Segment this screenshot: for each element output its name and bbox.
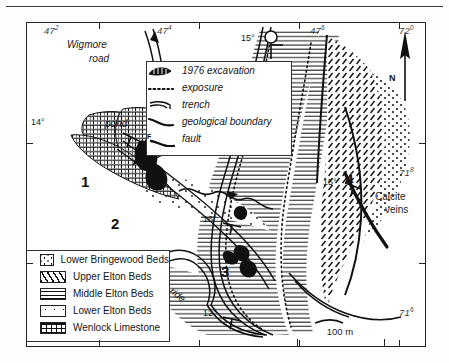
frame-tick-top-1	[99, 23, 100, 29]
pattern-swatch-upper-elton	[40, 271, 66, 283]
locality-number-3: 3	[221, 263, 229, 280]
strat-item-lower-bringewood: Lower Bringewood Beds	[40, 251, 169, 268]
exposure-icon	[147, 82, 175, 94]
north-arrow-icon	[395, 29, 415, 103]
pattern-swatch-wenlock-limestone	[40, 322, 66, 334]
legend-label-fault: fault	[182, 133, 201, 144]
strat-item-middle-elton: Middle Elton Beds	[40, 285, 169, 302]
north-arrow-label: N	[389, 73, 396, 83]
page-top-rule	[6, 6, 443, 7]
legend-label-exposure: exposure	[182, 82, 223, 93]
grid-label-right-2: 716	[399, 306, 414, 318]
geological-boundary-icon	[147, 116, 175, 128]
scale-bar-rule	[297, 339, 385, 347]
pattern-swatch-middle-elton	[40, 288, 66, 300]
frame-tick-left-2	[27, 263, 33, 264]
scale-bar-label: 100 m	[297, 326, 383, 337]
frame-tick-right-2	[419, 263, 425, 264]
legend-label-boundary: geological boundary	[182, 116, 272, 127]
legend-item-boundary: geological boundary	[147, 113, 291, 130]
legend-item-trench: trench	[147, 96, 291, 113]
strat-label-upper-elton: Upper Elton Beds	[73, 271, 151, 282]
label-pond: pond	[105, 118, 127, 129]
strat-label-lower-elton: Lower Elton Beds	[73, 305, 151, 316]
north-arrow: N	[395, 29, 415, 103]
frame-tick-top-3	[299, 23, 300, 29]
strat-label-lower-bringewood: Lower Bringewood Beds	[61, 254, 169, 265]
strat-label-middle-elton: Middle Elton Beds	[73, 288, 154, 299]
frame-tick-right-1	[419, 143, 425, 144]
excavation-icon	[147, 65, 175, 77]
legend-symbols: 1976 excavation exposure	[146, 61, 292, 156]
frame-tick-bottom-1	[99, 340, 100, 346]
frame-tick-bottom-2	[199, 340, 200, 346]
fault-icon: F	[147, 133, 175, 145]
grid-label-top-2: 474	[157, 24, 172, 36]
locality-number-4: 4	[345, 171, 353, 188]
pattern-swatch-lower-elton	[40, 305, 66, 317]
grid-label-right-1: 718	[399, 166, 414, 178]
legend-label-excavation: 1976 excavation	[182, 65, 255, 76]
dip-reading-16: 16°	[203, 214, 217, 224]
grid-label-top-1: 472	[44, 24, 59, 36]
legend-item-exposure: exposure	[147, 79, 291, 96]
figure-page: Wigmore road pond ride Calcite veins 14°…	[0, 0, 449, 363]
dip-reading-15-top: 15°	[241, 33, 255, 43]
fault-marker-F: F	[147, 133, 152, 140]
dip-reading-15-right: 15°	[323, 177, 337, 187]
label-calcite-veins-line1: Calcite	[375, 191, 406, 202]
legend-label-trench: trench	[182, 99, 210, 110]
strat-item-wenlock-limestone: Wenlock Limestone	[40, 319, 169, 336]
grid-label-top-4: 720	[399, 24, 414, 36]
dip-reading-14: 14°	[31, 117, 45, 127]
frame-tick-bottom-4	[399, 340, 400, 346]
legend-item-excavation: 1976 excavation	[147, 62, 291, 79]
locality-number-1: 1	[81, 173, 89, 190]
legend-stratigraphy: Lower Bringewood Beds Upper Elton Beds M…	[26, 250, 170, 342]
frame-tick-top-2	[199, 23, 200, 29]
pattern-swatch-lower-bringewood	[40, 254, 54, 266]
legend-item-fault: F fault	[147, 130, 291, 147]
label-calcite-veins-line2: veins	[385, 204, 408, 215]
label-wigmore-road-line2: road	[89, 53, 109, 64]
frame-tick-bottom-3	[299, 340, 300, 346]
strat-label-wenlock-limestone: Wenlock Limestone	[73, 322, 160, 333]
dip-reading-12: 12°	[203, 308, 217, 318]
strat-item-lower-elton: Lower Elton Beds	[40, 302, 169, 319]
trench-icon	[147, 99, 175, 111]
label-wigmore-road-line1: Wigmore	[67, 39, 107, 50]
locality-number-2: 2	[111, 215, 119, 232]
scale-bar: 100 m	[297, 326, 385, 347]
grid-label-top-3: 476	[310, 24, 325, 36]
strat-item-upper-elton: Upper Elton Beds	[40, 268, 169, 285]
frame-tick-left-1	[27, 143, 33, 144]
map-frame: Wigmore road pond ride Calcite veins 14°…	[26, 22, 426, 347]
